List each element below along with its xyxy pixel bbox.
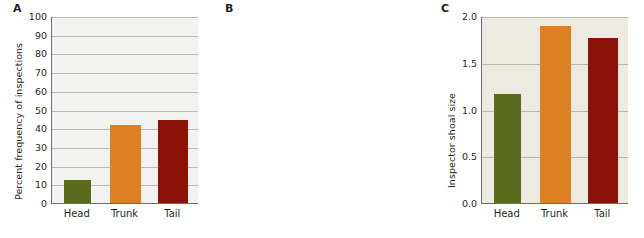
y-tick-label: 40 (35, 124, 47, 134)
y-tick-label: 80 (35, 50, 47, 60)
panel-c-letter: C (441, 2, 449, 15)
y-tick-label: 100 (29, 12, 47, 22)
bar-trunk (110, 125, 140, 203)
panel-c: C Minimal approach distance (cm) 02468 H… (430, 0, 644, 238)
panel-a-bars (52, 17, 198, 203)
y-tick-label: 70 (35, 68, 47, 78)
y-tick-label: 90 (35, 31, 47, 41)
panel-b: B Inspector shoal size 0.00.51.01.52.0 H… (215, 0, 430, 238)
panel-a-x-tick-labels: HeadTrunkTail (51, 208, 198, 224)
x-tick-label-trunk: Trunk (111, 208, 138, 219)
panel-a-y-tick-labels: 0102030405060708090100 (24, 17, 50, 203)
y-tick-label: 20 (35, 162, 47, 172)
y-tick-label: 30 (35, 143, 47, 153)
panel-a-letter: A (13, 2, 22, 15)
panel-a: A Percent frequency of inspections 01020… (0, 0, 215, 238)
x-tick-label-tail: Tail (164, 208, 180, 219)
y-tick-label: 0 (41, 199, 47, 209)
y-tick-label: 50 (35, 106, 47, 116)
y-tick-label: 60 (35, 87, 47, 97)
panel-b-letter: B (225, 2, 234, 15)
panel-a-plot-area (51, 17, 198, 204)
bar-tail (158, 120, 188, 203)
panel-a-y-axis-title: Percent frequency of inspections (13, 43, 24, 200)
bar-head (64, 180, 91, 203)
figure-three-panel-bar-charts: A Percent frequency of inspections 01020… (0, 0, 644, 238)
y-tick-label: 10 (35, 181, 47, 191)
x-tick-label-head: Head (64, 208, 90, 219)
